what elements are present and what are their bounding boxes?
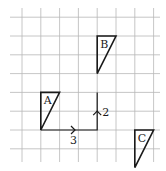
triangle-label-c: C — [138, 132, 146, 145]
triangle-label-a: A — [43, 94, 53, 107]
step-label-up: 2 — [102, 106, 109, 119]
triangle-label-b: B — [100, 38, 108, 51]
grid-diagram: ABC 32 — [0, 0, 166, 171]
step-label-right: 3 — [70, 134, 77, 147]
